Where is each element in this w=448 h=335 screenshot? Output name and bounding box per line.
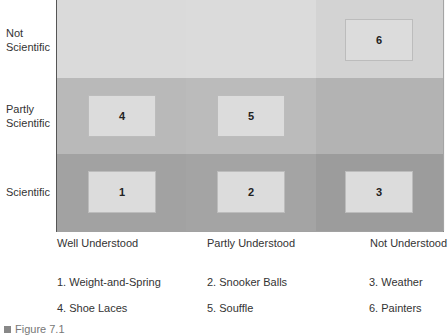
box-label: 1	[119, 186, 125, 198]
x-label-not-understood: Not Understood	[370, 237, 447, 249]
legend-item-3: 3. Weather	[369, 276, 423, 288]
x-label-well-understood: Well Understood	[57, 237, 138, 249]
caption-square-icon	[4, 326, 11, 333]
y-label-line: Scientific	[6, 185, 50, 199]
legend-item-6: 6. Painters	[369, 302, 422, 314]
box-2: 2	[217, 171, 285, 213]
box-label: 2	[248, 186, 254, 198]
legend-item-1: 1. Weight-and-Spring	[57, 276, 161, 288]
caption-text: Figure 7.1	[15, 323, 65, 335]
box-1: 1	[88, 171, 156, 213]
box-label: 4	[119, 110, 125, 122]
legend-item-2: 2. Snooker Balls	[207, 276, 287, 288]
box-5: 5	[217, 95, 285, 137]
box-label: 5	[248, 110, 254, 122]
x-label-partly-understood: Partly Understood	[207, 237, 295, 249]
figure-caption: Figure 7.1	[4, 323, 65, 335]
legend-item-5: 5. Souffle	[207, 302, 253, 314]
y-label-line: Partly	[6, 102, 50, 116]
y-label-line: Not	[6, 26, 50, 40]
legend-item-4: 4. Shoe Laces	[57, 302, 127, 314]
y-label-partly-scientific: Partly Scientific	[6, 102, 50, 130]
box-4: 4	[88, 95, 156, 137]
box-label: 3	[376, 186, 382, 198]
y-label-line: Scientific	[6, 116, 50, 130]
classification-grid: 6 4 5 1 2 3	[56, 0, 444, 232]
y-label-line: Scientific	[6, 40, 50, 54]
y-label-not-scientific: Not Scientific	[6, 26, 50, 54]
box-label: 6	[376, 34, 382, 46]
box-6: 6	[345, 19, 413, 61]
y-label-scientific: Scientific	[6, 185, 50, 199]
box-3: 3	[345, 171, 413, 213]
